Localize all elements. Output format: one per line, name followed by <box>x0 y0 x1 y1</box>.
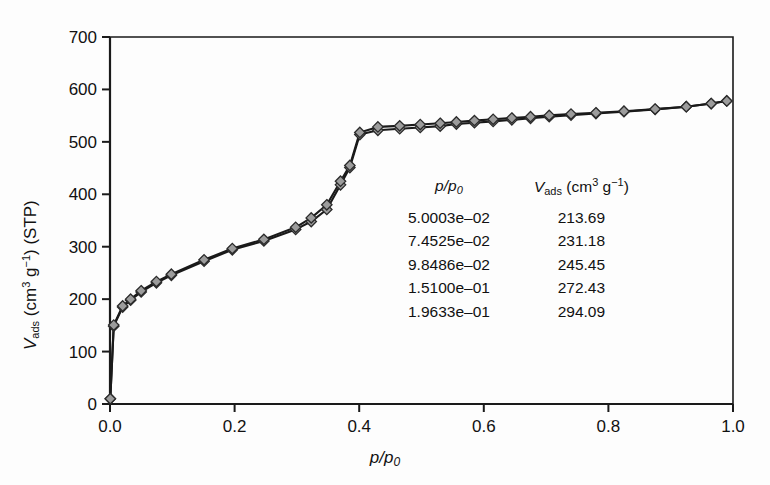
data-point-marker <box>591 108 601 118</box>
header-y-symbol: V <box>534 178 544 195</box>
cell-adsorbed-volume: 294.09 <box>534 300 629 323</box>
table-header-adsorbed-volume: Vads (cm3 g−1) <box>534 176 629 206</box>
y-axis-unit-mid: g <box>21 268 40 282</box>
y-axis-tick-label: 700 <box>69 28 97 47</box>
x-axis-tick-label: 1.0 <box>721 417 745 436</box>
y-axis-tick-label: 500 <box>69 133 97 152</box>
cell-adsorbed-volume: 231.18 <box>534 229 629 252</box>
data-point-marker <box>566 109 576 119</box>
table-row: 1.9633e–01294.09 <box>408 300 629 323</box>
header-y-unit-open: (cm <box>562 178 592 195</box>
header-y-unit-close: ) <box>624 178 629 195</box>
table-header-relative-pressure: p/p0 <box>408 176 534 206</box>
data-point-marker <box>619 106 629 116</box>
cell-relative-pressure: 5.0003e–02 <box>408 206 534 229</box>
x-axis-tick-label: 0.8 <box>597 417 621 436</box>
data-point-marker <box>722 96 732 106</box>
y-axis-title: Vads (cm3 g−1) (STP) <box>20 200 41 350</box>
data-point-marker <box>650 104 660 114</box>
y-axis-tick-label: 100 <box>69 343 97 362</box>
header-y-unit-mid: g <box>598 178 611 195</box>
y-axis-tick-label: 0 <box>88 395 97 414</box>
y-axis-unit-close: ) (STP) <box>21 200 40 255</box>
y-axis-unit-exponent-1: 3 <box>20 282 32 288</box>
data-table: p/p0 Vads (cm3 g−1) 5.0003e–02213.697.45… <box>408 176 629 323</box>
x-axis-tick-label: 0.4 <box>347 417 371 436</box>
adsorption-isotherm-figure: 01002003004005006007000.00.20.40.60.81.0… <box>0 0 770 485</box>
x-axis-tick-label: 0.6 <box>472 417 496 436</box>
cell-relative-pressure: 1.9633e–01 <box>408 300 534 323</box>
table-row: 9.8486e–02245.45 <box>408 253 629 276</box>
data-point-marker <box>706 98 716 108</box>
table-body: 5.0003e–02213.697.4525e–02231.189.8486e–… <box>408 206 629 323</box>
x-axis-title-subscript: 0 <box>393 455 400 469</box>
header-x-subscript: 0 <box>457 184 463 196</box>
x-axis-title-main: p/p <box>370 448 394 467</box>
header-y-subscript: ads <box>544 185 562 197</box>
x-axis-tick-label: 0.2 <box>223 417 247 436</box>
y-axis-tick-label: 400 <box>69 185 97 204</box>
y-axis-symbol: V <box>21 339 40 350</box>
x-axis-title: p/p0 <box>0 448 770 469</box>
cell-relative-pressure: 9.8486e–02 <box>408 253 534 276</box>
cell-adsorbed-volume: 272.43 <box>534 276 629 299</box>
y-axis-unit-exponent-2: −1 <box>20 255 32 268</box>
y-axis-tick-label: 600 <box>69 80 97 99</box>
table-row: 1.5100e–01272.43 <box>408 276 629 299</box>
tick-label-group: 01002003004005006007000.00.20.40.60.81.0 <box>69 28 745 436</box>
cell-relative-pressure: 7.4525e–02 <box>408 229 534 252</box>
table-row: 7.4525e–02231.18 <box>408 229 629 252</box>
cell-relative-pressure: 1.5100e–01 <box>408 276 534 299</box>
cell-adsorbed-volume: 213.69 <box>534 206 629 229</box>
y-axis-tick-label: 200 <box>69 290 97 309</box>
header-y-exponent-2: −1 <box>611 176 624 188</box>
y-axis-unit-open: (cm <box>21 288 40 321</box>
table-row: 5.0003e–02213.69 <box>408 206 629 229</box>
y-axis-symbol-subscript: ads <box>29 321 41 339</box>
x-axis-tick-label: 0.0 <box>98 417 122 436</box>
y-axis-tick-label: 300 <box>69 238 97 257</box>
table-header-row: p/p0 Vads (cm3 g−1) <box>408 176 629 206</box>
cell-adsorbed-volume: 245.45 <box>534 253 629 276</box>
isotherm-plot: 01002003004005006007000.00.20.40.60.81.0 <box>0 0 770 485</box>
data-point-marker <box>681 102 691 112</box>
header-x-main: p/p <box>435 177 457 194</box>
annotation-data-table: p/p0 Vads (cm3 g−1) 5.0003e–02213.697.45… <box>408 176 629 323</box>
data-point-marker <box>105 394 115 404</box>
